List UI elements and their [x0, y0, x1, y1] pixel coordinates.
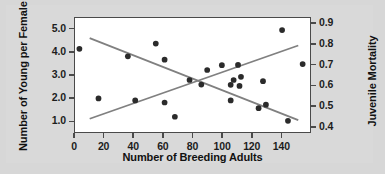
data-point	[263, 102, 269, 108]
x-axis-tick	[251, 133, 253, 138]
data-point	[256, 105, 262, 111]
x-axis-tick	[221, 133, 223, 138]
y-axis-right-title: Juvenile Mortality	[366, 11, 378, 151]
data-point	[279, 27, 285, 33]
y-axis-left-tick	[69, 51, 74, 53]
y-axis-left-ticklabel: 1.0	[34, 114, 66, 126]
data-point	[238, 74, 244, 80]
y-axis-right-tick	[311, 105, 316, 107]
y-axis-left-tick	[69, 74, 74, 76]
data-point	[228, 98, 234, 104]
chart-inner-panel: 1.02.03.04.05.00.40.50.60.70.80.90204060…	[6, 5, 373, 163]
y-axis-right-ticklabel: 0.6	[319, 78, 351, 90]
x-axis-tick	[132, 133, 134, 138]
x-axis-tick	[162, 133, 164, 138]
y-axis-left-ticklabel: 5.0	[34, 22, 66, 34]
x-axis-tick	[103, 133, 105, 138]
data-point	[285, 118, 291, 124]
data-point	[162, 100, 168, 106]
y-axis-left-tick	[69, 121, 74, 123]
y-axis-left-title: Number of Young per Female	[17, 11, 29, 151]
y-axis-left-tick	[69, 97, 74, 99]
y-axis-left-ticklabel: 4.0	[34, 45, 66, 57]
y-axis-right-ticklabel: 0.7	[319, 58, 351, 70]
data-point	[162, 57, 168, 63]
y-axis-right-tick	[311, 85, 316, 87]
data-point	[228, 82, 234, 88]
data-point	[237, 83, 243, 89]
y-axis-left-tick	[69, 28, 74, 30]
data-point	[231, 77, 237, 83]
plot-area	[74, 17, 311, 133]
y-axis-right-ticklabel: 0.4	[319, 120, 351, 132]
data-point	[153, 41, 159, 47]
data-point	[300, 61, 306, 67]
data-point	[187, 77, 193, 83]
plot-canvas	[75, 18, 310, 132]
chart-figure: 1.02.03.04.05.00.40.50.60.70.80.90204060…	[0, 0, 385, 174]
data-point	[235, 62, 241, 68]
data-point	[132, 98, 138, 104]
data-point	[77, 46, 83, 52]
y-axis-right-ticklabel: 0.9	[319, 16, 351, 28]
y-axis-right-tick	[311, 64, 316, 66]
data-point	[172, 114, 178, 120]
data-point	[125, 53, 131, 59]
y-axis-right-ticklabel: 0.5	[319, 99, 351, 111]
data-point	[204, 67, 210, 73]
y-axis-left-ticklabel: 2.0	[34, 91, 66, 103]
x-axis-tick	[192, 133, 194, 138]
data-point	[96, 96, 102, 102]
x-axis-tick	[73, 133, 75, 138]
data-point	[198, 82, 204, 88]
x-axis-tick	[281, 133, 283, 138]
data-point	[260, 78, 266, 84]
y-axis-right-tick	[311, 22, 316, 24]
y-axis-right-ticklabel: 0.8	[319, 37, 351, 49]
y-axis-right-tick	[311, 43, 316, 45]
y-axis-right-tick	[311, 126, 316, 128]
x-axis-title: Number of Breeding Adults	[74, 151, 311, 163]
y-axis-left-ticklabel: 3.0	[34, 68, 66, 80]
data-point	[219, 62, 225, 68]
